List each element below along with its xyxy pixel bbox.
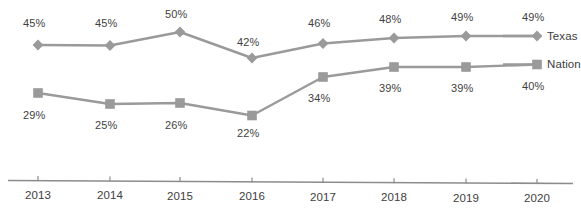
x-tick-label-2019: 2019 [446, 192, 486, 205]
data-label-texas-2014: 45% [95, 17, 117, 29]
chart-plot-area [0, 0, 581, 212]
data-label-nation-2016: 22% [237, 127, 259, 139]
legend-label-nation: Nation [547, 58, 581, 71]
line-chart: 45% 45% 50% 42% 46% 48% 49% 49% 29% 25% … [0, 0, 581, 212]
x-tick-label-2020: 2020 [517, 192, 557, 205]
x-tick-label-2013: 2013 [18, 189, 58, 202]
data-label-texas-2013: 45% [23, 17, 45, 29]
legend-label-texas: Texas [547, 30, 578, 43]
x-tick-label-2018: 2018 [374, 191, 414, 204]
data-label-nation-2013: 29% [23, 109, 45, 121]
series-markers-texas [33, 27, 543, 64]
x-tick-label-2016: 2016 [232, 190, 272, 203]
data-label-texas-2016: 42% [237, 36, 259, 48]
data-label-texas-2019: 49% [451, 11, 473, 23]
data-label-nation-2015: 26% [165, 119, 187, 131]
data-label-texas-2015: 50% [165, 8, 187, 20]
data-label-nation-2017: 34% [308, 92, 330, 104]
x-tick-label-2017: 2017 [303, 191, 343, 204]
data-label-nation-2014: 25% [95, 119, 117, 131]
data-label-nation-2019: 39% [451, 82, 473, 94]
x-axis-line [8, 181, 573, 184]
x-tick-label-2015: 2015 [160, 190, 200, 203]
data-label-nation-2018: 39% [379, 82, 401, 94]
data-label-texas-2018: 48% [379, 13, 401, 25]
data-label-texas-2017: 46% [308, 17, 330, 29]
data-label-texas-2020: 49% [522, 11, 544, 23]
data-label-nation-2020: 40% [522, 80, 544, 92]
x-tick-label-2014: 2014 [90, 189, 130, 202]
